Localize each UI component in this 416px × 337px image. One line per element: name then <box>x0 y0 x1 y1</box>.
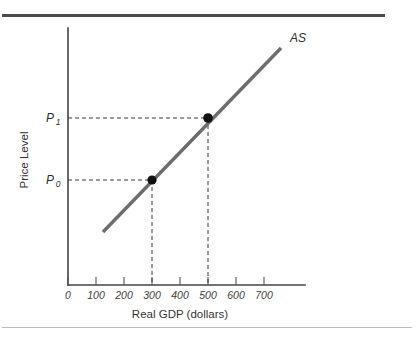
x-tick-label-500: 500 <box>199 289 217 301</box>
bottom-divider-rule <box>2 327 412 328</box>
x-axis-tick-labels: 0 100 200 300 400 500 600 700 <box>65 289 273 301</box>
figure-container: 0 100 200 300 400 500 600 700 Real GDP (… <box>0 0 416 337</box>
y-label-p0-subscript: 0 <box>56 179 61 189</box>
aggregate-supply-chart: 0 100 200 300 400 500 600 700 Real GDP (… <box>0 0 416 337</box>
x-axis-ticks <box>68 277 264 285</box>
x-tick-label-600: 600 <box>227 289 245 301</box>
as-curve-label: AS <box>289 31 306 45</box>
x-tick-label-200: 200 <box>114 289 133 301</box>
y-label-p0-base: P <box>46 173 54 187</box>
x-tick-label-700: 700 <box>255 289 273 301</box>
x-tick-label-300: 300 <box>143 289 161 301</box>
x-tick-label-400: 400 <box>171 289 189 301</box>
point-p0-marker <box>147 175 156 184</box>
point-p1-marker <box>203 113 213 123</box>
as-curve-line <box>103 48 281 232</box>
y-label-p1-base: P <box>46 111 54 125</box>
x-axis-title: Real GDP (dollars) <box>132 308 228 320</box>
x-tick-label-0: 0 <box>65 289 71 301</box>
y-label-p1-subscript: 1 <box>56 117 61 127</box>
x-tick-label-100: 100 <box>87 289 105 301</box>
y-axis-title: Price Level <box>18 132 30 189</box>
y-label-p0-group: P 0 <box>46 173 61 189</box>
y-label-p1-group: P 1 <box>46 111 61 127</box>
